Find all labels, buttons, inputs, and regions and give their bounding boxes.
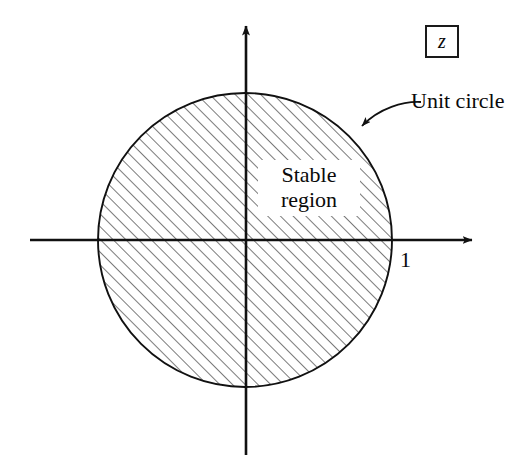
stable-region-annotation: Stable region — [258, 160, 360, 216]
diagram-canvas — [0, 0, 531, 466]
stable-region-line-2: region — [261, 187, 357, 212]
z-plane-box-label: z — [425, 25, 459, 58]
z-plane-stability-diagram: z Unit circle Stable region 1 — [0, 0, 531, 466]
real-axis-tick-label-1: 1 — [400, 247, 411, 272]
stable-region-line-1: Stable — [261, 162, 357, 187]
unit-circle-annotation: Unit circle — [411, 88, 504, 113]
